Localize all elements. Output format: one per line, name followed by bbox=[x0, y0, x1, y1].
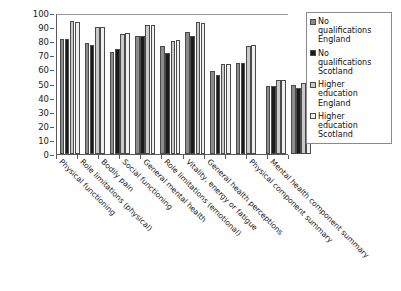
bar bbox=[85, 43, 90, 154]
bar bbox=[210, 71, 215, 154]
bar bbox=[246, 46, 251, 154]
y-axis-tick-label: 50 bbox=[38, 81, 49, 89]
bar bbox=[165, 53, 170, 154]
bar bbox=[135, 36, 140, 154]
legend-item: No qualifications Scotland bbox=[310, 49, 388, 77]
legend-swatch-no-qualifications-scotland bbox=[310, 50, 316, 56]
y-axis-tick-mark bbox=[50, 14, 54, 15]
y-axis-tick-label: 30 bbox=[38, 109, 49, 117]
y-axis-tick-label: 10 bbox=[38, 137, 49, 145]
bar bbox=[90, 45, 95, 154]
bar-group bbox=[132, 14, 157, 154]
bar bbox=[201, 23, 206, 154]
legend-item: Higher education Scotland bbox=[310, 112, 388, 140]
legend-item-label: Higher education England bbox=[318, 80, 358, 108]
bar-group bbox=[158, 14, 183, 154]
bar bbox=[60, 39, 65, 154]
bar bbox=[276, 80, 281, 154]
bar bbox=[115, 49, 120, 154]
legend-item-label: Higher education Scotland bbox=[318, 112, 358, 140]
bar bbox=[251, 45, 256, 154]
bar bbox=[190, 36, 195, 154]
bar-group bbox=[233, 14, 258, 154]
legend-item: Higher education England bbox=[310, 80, 388, 108]
y-axis-tick-label: 40 bbox=[38, 95, 49, 103]
y-axis-tick-label: 0 bbox=[44, 151, 49, 159]
x-axis-category-label: Physical component summary bbox=[247, 158, 334, 245]
bar bbox=[176, 40, 181, 154]
bar bbox=[110, 52, 115, 154]
bar bbox=[236, 63, 241, 154]
plot-area bbox=[56, 14, 288, 155]
bar bbox=[120, 34, 125, 154]
bar-group bbox=[183, 14, 208, 154]
x-axis-category-label: General health perceptions bbox=[205, 158, 284, 237]
legend-swatch-higher-education-scotland bbox=[310, 113, 316, 119]
y-axis-tick-mark bbox=[50, 56, 54, 57]
y-axis-tick-labels: 1009080706050403020100 bbox=[20, 14, 54, 155]
y-axis-tick-mark bbox=[50, 28, 54, 29]
bar-group bbox=[208, 14, 233, 154]
bar bbox=[151, 25, 156, 154]
bar-group bbox=[82, 14, 107, 154]
y-axis-tick-mark bbox=[50, 141, 54, 142]
bar bbox=[216, 75, 221, 154]
legend-item: No qualifications England bbox=[310, 17, 388, 45]
y-axis-tick-mark bbox=[50, 113, 54, 114]
bar-groups bbox=[57, 14, 288, 154]
bar bbox=[196, 22, 201, 154]
bar bbox=[271, 86, 276, 154]
y-axis-tick-label: 70 bbox=[38, 52, 49, 60]
legend-swatch-no-qualifications-england bbox=[310, 19, 316, 25]
bar bbox=[65, 39, 70, 155]
bar bbox=[171, 41, 176, 154]
y-axis-tick-mark bbox=[50, 70, 54, 71]
y-axis-tick-mark bbox=[50, 99, 54, 100]
legend-swatch-higher-education-england bbox=[310, 82, 316, 88]
y-axis-tick-mark bbox=[50, 42, 54, 43]
y-axis-tick-label: 100 bbox=[33, 10, 49, 18]
y-axis-tick-mark bbox=[50, 85, 54, 86]
bar bbox=[185, 32, 190, 154]
bar-group bbox=[107, 14, 132, 154]
legend-item-label: No qualifications Scotland bbox=[318, 49, 371, 77]
bar bbox=[125, 33, 130, 154]
y-axis-title-container: SF-36 mean score bbox=[4, 14, 18, 155]
bar bbox=[266, 86, 271, 154]
y-axis-tick-mark bbox=[50, 127, 54, 128]
sf36-bar-chart-figure: SF-36 mean score 1009080706050403020100 … bbox=[0, 0, 401, 291]
bar bbox=[226, 64, 231, 154]
bar bbox=[100, 27, 105, 154]
bar bbox=[281, 80, 286, 154]
bar bbox=[291, 85, 296, 154]
bar bbox=[241, 63, 246, 154]
bar bbox=[95, 27, 100, 154]
bar bbox=[75, 22, 80, 154]
bar bbox=[140, 36, 145, 154]
y-axis-tick-label: 20 bbox=[38, 123, 49, 131]
legend-item-label: No qualifications England bbox=[318, 17, 371, 45]
bar-group bbox=[57, 14, 82, 154]
bar-group bbox=[263, 14, 288, 154]
bar bbox=[221, 64, 226, 154]
chart-legend: No qualifications EnglandNo qualificatio… bbox=[306, 12, 392, 144]
y-axis-tick-mark bbox=[50, 155, 54, 156]
bar bbox=[296, 88, 301, 154]
bar bbox=[160, 46, 165, 154]
y-axis-tick-label: 90 bbox=[38, 24, 49, 32]
bar bbox=[145, 25, 150, 154]
bar bbox=[70, 21, 75, 154]
x-axis-category-label: Mental health component summary bbox=[268, 158, 370, 260]
y-axis-tick-label: 60 bbox=[38, 66, 49, 74]
x-axis-category-labels: Physical functioningRole limitations (ph… bbox=[56, 156, 356, 286]
y-axis-tick-label: 80 bbox=[38, 38, 49, 46]
